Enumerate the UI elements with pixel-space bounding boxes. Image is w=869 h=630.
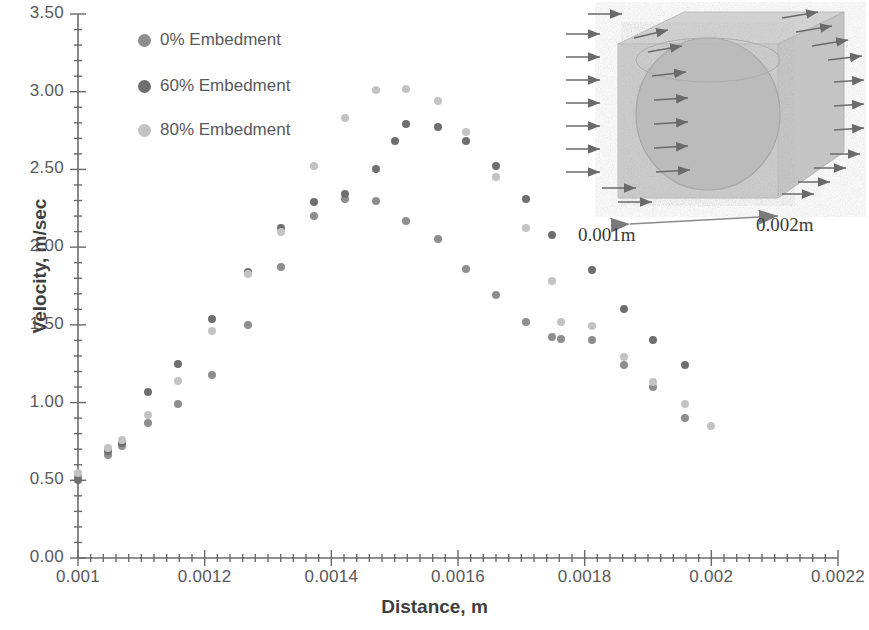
y-tick-label: 2.50 [0,158,64,178]
legend-label: 80% Embedment [160,120,290,140]
inset-geometry-diagram: 0.001m 0.002m [556,2,866,250]
legend-marker-icon [138,80,151,93]
data-point [310,212,318,220]
data-point [548,231,556,239]
data-point [462,265,470,273]
data-point [144,419,152,427]
legend-marker-icon [138,124,151,137]
y-tick-label: 3.50 [0,3,64,23]
data-point [557,318,565,326]
data-point [208,371,216,379]
legend-marker-icon [138,34,151,47]
x-tick-label: 0.0016 [403,567,513,587]
legend-item-2[interactable]: 80% Embedment [138,120,290,140]
data-point [310,198,318,206]
legend-label: 60% Embedment [160,76,290,96]
data-point [681,400,689,408]
data-point [372,197,380,205]
data-point [277,263,285,271]
data-point [681,414,689,422]
x-tick-label: 0.001 [23,567,133,587]
data-point [548,333,556,341]
x-tick-label: 0.002 [656,567,766,587]
data-point [310,162,318,170]
x-tick-label: 0.0022 [783,567,869,587]
data-point [557,335,565,343]
legend-label: 0% Embedment [160,30,281,50]
inset-dimension-left: 0.001m [578,224,636,246]
data-point [244,321,252,329]
scatter-chart-figure: Velocity, m/sec Distance, m 0.000.501.00… [0,0,869,630]
data-point [174,377,182,385]
y-tick-label: 1.50 [0,314,64,334]
y-tick-label: 1.00 [0,392,64,412]
x-tick-label: 0.0018 [530,567,640,587]
data-point [681,361,689,369]
y-tick-label: 3.00 [0,81,64,101]
cube-sphere-svg [556,2,866,250]
data-point [402,85,410,93]
y-tick-label: 0.00 [0,547,64,567]
legend-item-0[interactable]: 0% Embedment [138,30,281,50]
data-point [208,315,216,323]
embedded-sphere [636,38,780,190]
data-point [244,270,252,278]
x-tick-label: 0.0014 [276,567,386,587]
data-point [277,228,285,236]
data-point [144,388,152,396]
y-tick-label: 2.00 [0,236,64,256]
y-tick-label: 0.50 [0,469,64,489]
data-point [74,469,82,477]
data-point [372,86,380,94]
data-point [144,411,152,419]
inset-dimension-right: 0.002m [756,214,814,236]
legend-item-1[interactable]: 60% Embedment [138,76,290,96]
data-point [174,360,182,368]
data-point [402,217,410,225]
data-point [462,128,470,136]
data-point [434,97,442,105]
x-tick-label: 0.0012 [150,567,260,587]
